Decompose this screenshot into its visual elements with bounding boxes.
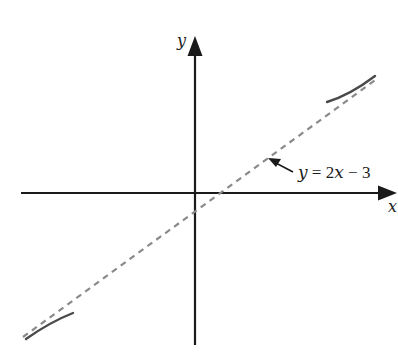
y-axis <box>188 36 203 345</box>
asymptote-label-eq: = 2 <box>308 163 335 182</box>
curve-upper-right-branch <box>327 76 375 102</box>
asymptote-label-y: y <box>297 162 308 182</box>
asymptote-label: y = 2x − 3 <box>297 162 370 182</box>
pointer-arrowhead-icon <box>268 158 281 167</box>
asymptote-pointer-arrow <box>268 158 293 172</box>
x-axis-label: x <box>388 197 397 216</box>
y-axis-label: y <box>176 31 187 50</box>
asymptote-label-x: x <box>334 162 344 182</box>
asymptote-label-rest: − 3 <box>344 163 371 182</box>
diagram-canvas: y = 2x − 3 y x <box>0 0 398 359</box>
y-axis-arrowhead-icon <box>188 36 203 56</box>
asymptote-line <box>23 78 378 337</box>
x-axis <box>21 186 397 201</box>
